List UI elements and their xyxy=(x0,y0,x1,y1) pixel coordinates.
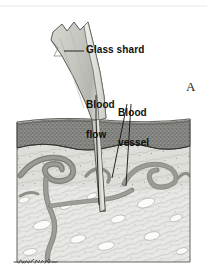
label-blood-flow-line2: flow xyxy=(86,130,115,140)
label-blood-vessel-line2: vessel xyxy=(118,138,149,148)
panel-letter: A xyxy=(186,80,196,93)
label-blood-vessel: Blood vessel xyxy=(118,88,149,168)
illustration-figure: Glass shard Blood flow Blood vessel A xyxy=(0,0,207,277)
label-blood-flow: Blood flow xyxy=(86,80,115,160)
label-blood-flow-line1: Blood xyxy=(86,100,115,110)
label-glass-shard: Glass shard xyxy=(86,45,144,55)
label-blood-vessel-line1: Blood xyxy=(118,108,149,118)
